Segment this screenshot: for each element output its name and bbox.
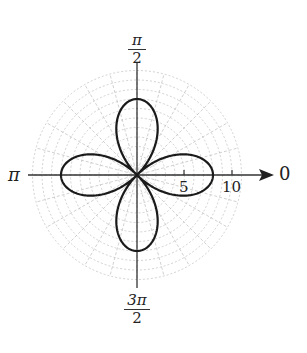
half-pi-numerator: π	[128, 33, 146, 50]
tick-label-10: 10	[222, 178, 241, 196]
three-half-pi-numerator: 3π	[124, 293, 150, 310]
axes	[28, 63, 274, 288]
tick-label-5: 5	[179, 178, 189, 196]
polar-plot	[0, 0, 307, 353]
angle-label-pi: π	[8, 164, 20, 185]
three-half-pi-denominator: 2	[124, 310, 150, 326]
angle-label-half-pi: π 2	[128, 33, 146, 66]
half-pi-denominator: 2	[128, 50, 146, 66]
angle-label-three-half-pi: 3π 2	[124, 293, 150, 326]
angle-label-0: 0	[279, 163, 290, 184]
